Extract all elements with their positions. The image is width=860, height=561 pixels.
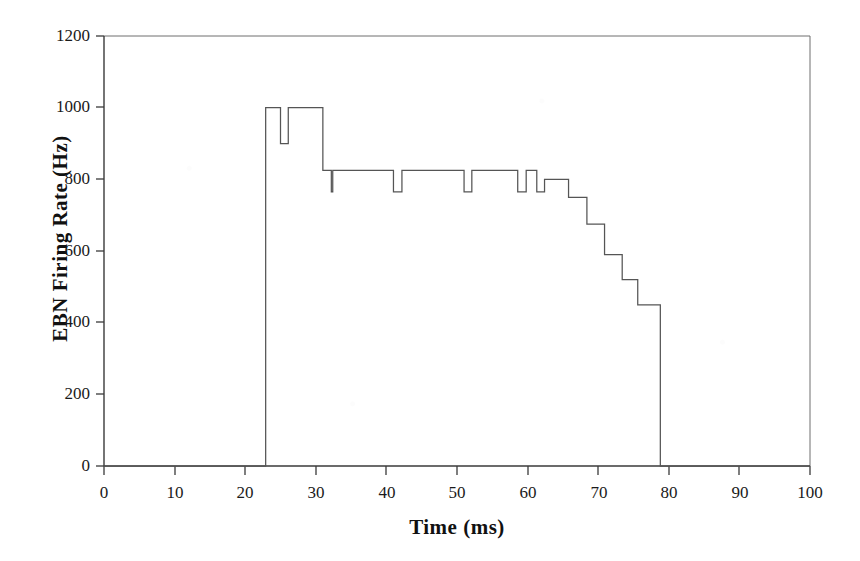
x-axis-ticks xyxy=(104,466,810,475)
data-series-ebn-firing-rate xyxy=(104,108,810,466)
axis-frame xyxy=(104,36,810,466)
chart-figure: EBN Firing Rate (Hz) Time (ms) 1200 1000… xyxy=(0,0,860,561)
y-axis-ticks xyxy=(96,36,104,466)
plot-area xyxy=(0,0,860,561)
